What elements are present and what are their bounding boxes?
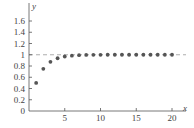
data-point xyxy=(99,53,103,57)
data-point xyxy=(56,56,60,60)
y-tick-label: 1.6 xyxy=(14,16,26,26)
x-tick-label: 15 xyxy=(132,113,142,123)
data-point xyxy=(84,53,88,57)
data-point xyxy=(113,53,117,57)
data-point xyxy=(106,53,110,57)
y-tick-label: 0 xyxy=(21,106,26,116)
data-points xyxy=(34,53,174,85)
x-tick-label: 5 xyxy=(63,113,68,123)
data-point xyxy=(134,53,138,57)
data-point xyxy=(34,81,38,85)
data-point xyxy=(77,53,81,57)
x-tick-label: 20 xyxy=(168,113,178,123)
data-point xyxy=(41,67,45,71)
scatter-chart: 00.20.40.60.811.21.41.6 5101520 x y xyxy=(0,0,194,128)
data-point xyxy=(156,53,160,57)
x-ticks: 5101520 xyxy=(63,108,178,123)
data-point xyxy=(120,53,124,57)
y-tick-label: 0.6 xyxy=(14,72,26,82)
data-point xyxy=(149,53,153,57)
data-point xyxy=(91,53,95,57)
y-tick-label: 0.8 xyxy=(14,61,26,71)
y-tick-label: 1.4 xyxy=(14,27,26,37)
y-tick-label: 1 xyxy=(21,50,26,60)
y-tick-label: 0.2 xyxy=(14,95,25,105)
x-tick-label: 10 xyxy=(96,113,106,123)
data-point xyxy=(70,54,74,58)
data-point xyxy=(49,60,53,64)
y-axis-label: y xyxy=(31,1,36,11)
data-point xyxy=(170,53,174,57)
y-tick-label: 0.4 xyxy=(14,84,26,94)
data-point xyxy=(63,55,67,59)
y-tick-label: 1.2 xyxy=(14,39,25,49)
x-axis-label: x xyxy=(182,103,187,113)
data-point xyxy=(142,53,146,57)
data-point xyxy=(127,53,131,57)
data-point xyxy=(163,53,167,57)
axes xyxy=(29,3,186,111)
